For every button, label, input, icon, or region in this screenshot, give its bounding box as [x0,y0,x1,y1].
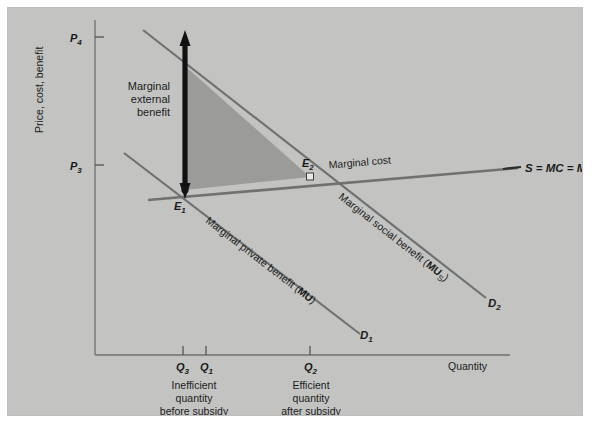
demand-d2-label: D2 [488,297,501,312]
external-benefit-triangle [185,66,310,190]
marginal-social-benefit-label: Marginal social benefit (MUS) [335,190,451,286]
equilibrium-label-e1: E1 [174,200,186,215]
efficient-quantity-note: Efficient quantity after subsidy [281,379,341,415]
d2-sub: 2 [495,303,501,312]
y-tick-p3-sub: 3 [77,166,82,175]
svg-text:Q2: Q2 [304,361,318,376]
svg-text:E1: E1 [174,200,186,215]
e1-sub: 1 [181,206,186,215]
equilibrium-label-e2: E2 [302,157,314,172]
d1-text: D [360,329,368,341]
x-tick-label-q1: Q1 [200,361,214,376]
y-tick-label-p3: P3 [70,160,82,175]
e2-sub: 2 [308,163,314,172]
svg-text:Marginal private benefit (MU): Marginal private benefit (MU) [204,214,319,306]
x-tick-q1-sub: 1 [209,367,214,376]
inefficient-quantity-note: Inefficient quantity before subsidy [160,379,229,415]
equilibrium-point-e2 [307,173,314,180]
x-axis-title: Quantity [448,360,488,372]
x-tick-q3-sub: 3 [185,367,190,376]
svg-text:P4: P4 [70,32,82,47]
y-axis-title: Price, cost, benefit [33,47,45,133]
x-tick-q2-sub: 2 [312,367,318,376]
d1-sub: 1 [368,335,373,344]
figure-root: Price, cost, benefit Quantity P4 P3 Q3 [0,0,598,431]
marginal-cost-label: Marginal cost [328,153,391,170]
y-tick-p4-sub: 4 [76,38,82,47]
external-benefit-line3: benefit [137,106,170,118]
external-benefit-line2: external [131,93,170,105]
d2-text: D [488,297,496,309]
external-benefit-line1: Marginal [128,80,170,92]
y-tick-label-p4: P4 [70,32,82,47]
svg-text:E2: E2 [302,157,314,172]
inefficient-line1: Inefficient [172,379,217,391]
efficient-line1: Efficient [292,379,329,391]
svg-text:S = MC = MCS: S = MC = MCS [525,162,582,177]
marginal-private-benefit-label: Marginal private benefit (MU) [204,214,319,306]
svg-text:Marginal social benefit (MUS): Marginal social benefit (MUS) [335,190,451,286]
figure-panel: Price, cost, benefit Quantity P4 P3 Q3 [8,8,582,415]
efficient-line2: quantity [293,392,331,404]
svg-text:D2: D2 [488,297,501,312]
mpb-label-text: Marginal private benefit ( [204,214,303,294]
marginal-external-benefit-label: Marginal external benefit [128,80,170,118]
economics-diagram: Price, cost, benefit Quantity P4 P3 Q3 [8,8,582,415]
svg-text:D1: D1 [360,329,373,344]
svg-text:Q3: Q3 [176,361,190,376]
x-tick-label-q2: Q2 [304,361,318,376]
svg-text:Q1: Q1 [200,361,214,376]
x-tick-label-q3: Q3 [176,361,190,376]
inefficient-line2: quantity [176,392,214,404]
svg-text:P3: P3 [70,160,82,175]
demand-d1-label: D1 [360,329,373,344]
efficient-line3: after subsidy [281,405,341,415]
equilibrium-point-e1 [181,186,188,193]
supply-right-label: S = MC = MCS [525,162,582,177]
inefficient-line3: before subsidy [160,405,229,415]
msb-label-text: Marginal social benefit ( [337,190,432,268]
supply-label-connector [503,167,521,169]
supply-label-text: S = MC = MC [525,162,582,174]
